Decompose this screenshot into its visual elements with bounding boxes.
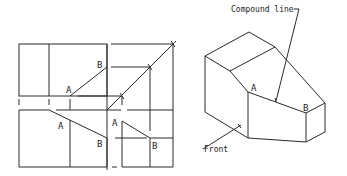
top-view-label-a: A <box>66 85 72 95</box>
side-view-label-a: A <box>112 118 118 128</box>
front-callout: Front <box>204 145 228 154</box>
side-view-label-b: B <box>152 141 157 151</box>
compound-line-callout: Compound line <box>231 5 294 14</box>
front-view-label-b: B <box>97 139 102 149</box>
front-view-label-a: A <box>58 121 64 131</box>
front-view: A B <box>19 110 107 167</box>
technical-drawing: B A A B A B <box>0 0 347 176</box>
iso-label-b: B <box>303 103 308 113</box>
top-view: B A <box>19 44 107 96</box>
iso-label-a: A <box>251 83 257 93</box>
top-view-label-b: B <box>97 60 102 70</box>
isometric-view: A B Compound line Front <box>203 5 325 154</box>
